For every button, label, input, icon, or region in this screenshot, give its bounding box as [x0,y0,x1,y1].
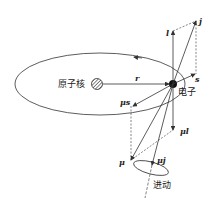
mu-j-vector [152,84,173,165]
l-label: l [166,28,169,38]
nucleus-label: 原子核 [58,78,85,89]
orbit-direction-arrow [134,57,142,58]
j-label: j [197,16,202,26]
s-label: s [195,74,200,84]
diagram-svg: 原子核 r 电子 l j s μs μl μ μj 进动 [0,0,215,204]
mu-l-label: μl [180,126,189,136]
spin-orbit-diagram: 原子核 r 电子 l j s μs μl μ μj 进动 [0,0,215,204]
mu-j-label: μj [157,155,166,165]
electron-label: 电子 [178,86,196,97]
mu-s-label: μs [120,97,131,107]
nucleus-icon [92,79,103,90]
precession-axis [145,165,152,198]
ljs-dashed-lines [173,21,196,74]
mu-label: μ [119,157,125,167]
mu-dashed-lines [131,106,173,160]
j-vector [173,21,196,84]
r-label: r [135,73,140,83]
precession-label: 进动 [153,180,171,190]
